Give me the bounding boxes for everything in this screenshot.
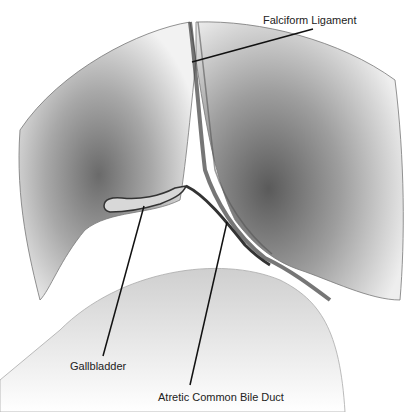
right-lobe — [196, 22, 403, 300]
label-gallbladder: Gallbladder — [70, 360, 126, 372]
label-falciform-ligament: Falciform Ligament — [263, 14, 357, 26]
left-lobe — [19, 22, 196, 300]
label-atretic-common-bile-duct: Atretic Common Bile Duct — [158, 391, 284, 403]
liver-illustration — [0, 0, 409, 412]
